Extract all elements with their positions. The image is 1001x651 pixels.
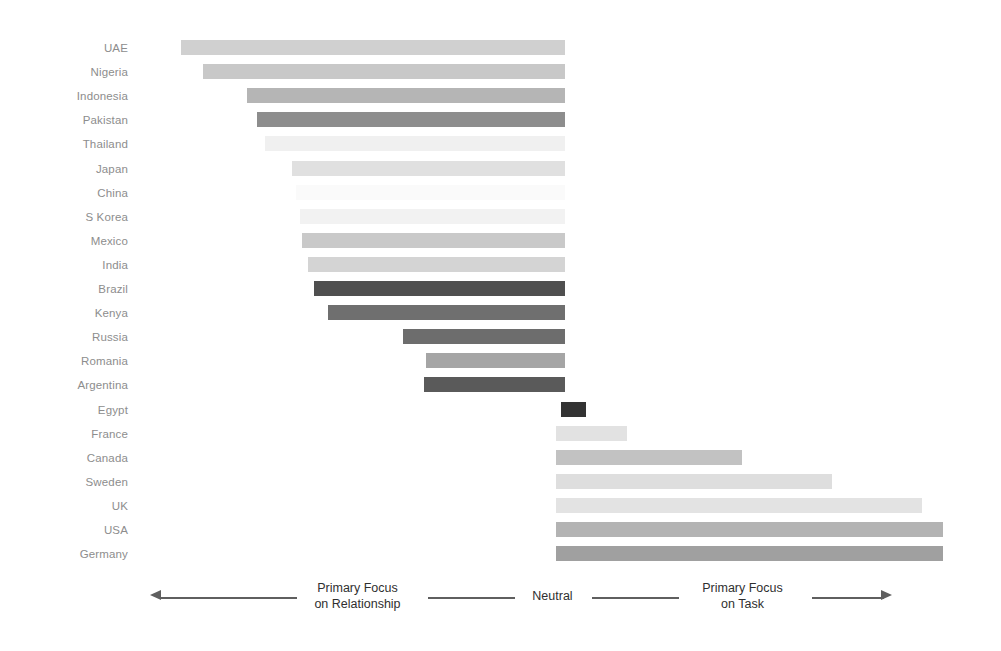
category-label-indonesia: Indonesia — [0, 84, 128, 108]
axis-label-task-line2: on Task — [680, 596, 805, 612]
bar-japan — [292, 161, 565, 176]
bar-uae — [181, 40, 565, 55]
bar-china — [296, 185, 565, 200]
chart-row: Germany — [0, 542, 1001, 566]
chart-row: Romania — [0, 349, 1001, 373]
chart-row: Argentina — [0, 373, 1001, 397]
axis-label-relationship-line2: on Relationship — [295, 596, 420, 612]
chart-row: Egypt — [0, 398, 1001, 422]
category-label-romania: Romania — [0, 349, 128, 373]
chart-row: India — [0, 253, 1001, 277]
axis-label-neutral: Neutral — [515, 588, 590, 604]
category-label-canada: Canada — [0, 446, 128, 470]
category-label-india: India — [0, 253, 128, 277]
axis-line-center-left-segment — [428, 597, 515, 599]
bar-thailand — [265, 136, 565, 151]
bar-uk — [556, 498, 922, 513]
chart-row: UAE — [0, 36, 1001, 60]
bar-mexico — [302, 233, 565, 248]
bar-egypt — [561, 402, 586, 417]
chart-row: Nigeria — [0, 60, 1001, 84]
axis-line-right-segment — [812, 597, 884, 599]
axis-label-task: Primary Focus on Task — [680, 580, 805, 612]
axis-line-center-right-segment — [592, 597, 679, 599]
bar-russia — [403, 329, 565, 344]
bar-usa — [556, 522, 943, 537]
chart-row: Japan — [0, 157, 1001, 181]
chart-row: Indonesia — [0, 84, 1001, 108]
axis-label-task-line1: Primary Focus — [702, 581, 783, 595]
chart-row: Mexico — [0, 229, 1001, 253]
bar-germany — [556, 546, 943, 561]
category-label-egypt: Egypt — [0, 398, 128, 422]
relationship-task-focus-chart: UAENigeriaIndonesiaPakistanThailandJapan… — [0, 0, 1001, 651]
bar-argentina — [424, 377, 565, 392]
category-label-sweden: Sweden — [0, 470, 128, 494]
chart-row: USA — [0, 518, 1001, 542]
category-label-germany: Germany — [0, 542, 128, 566]
chart-row: France — [0, 422, 1001, 446]
bar-s-korea — [300, 209, 565, 224]
category-label-thailand: Thailand — [0, 132, 128, 156]
category-label-mexico: Mexico — [0, 229, 128, 253]
axis-right-arrow-icon — [881, 590, 892, 600]
chart-row: Brazil — [0, 277, 1001, 301]
axis-label-neutral-text: Neutral — [532, 589, 572, 603]
category-label-kenya: Kenya — [0, 301, 128, 325]
category-label-uae: UAE — [0, 36, 128, 60]
chart-row: Thailand — [0, 132, 1001, 156]
chart-row: Kenya — [0, 301, 1001, 325]
chart-row: UK — [0, 494, 1001, 518]
category-label-russia: Russia — [0, 325, 128, 349]
bar-india — [308, 257, 565, 272]
chart-row: Canada — [0, 446, 1001, 470]
chart-row: China — [0, 181, 1001, 205]
chart-row: Pakistan — [0, 108, 1001, 132]
bar-pakistan — [257, 112, 565, 127]
category-label-france: France — [0, 422, 128, 446]
axis-line-left-segment — [160, 597, 297, 599]
bar-nigeria — [203, 64, 565, 79]
category-label-brazil: Brazil — [0, 277, 128, 301]
category-label-argentina: Argentina — [0, 373, 128, 397]
category-label-usa: USA — [0, 518, 128, 542]
bar-france — [556, 426, 627, 441]
chart-row: Russia — [0, 325, 1001, 349]
chart-row: S Korea — [0, 205, 1001, 229]
chart-axis: Primary Focus on Relationship Neutral Pr… — [0, 576, 1001, 636]
category-label-pakistan: Pakistan — [0, 108, 128, 132]
category-label-uk: UK — [0, 494, 128, 518]
category-label-china: China — [0, 181, 128, 205]
bar-indonesia — [247, 88, 565, 103]
bar-romania — [426, 353, 565, 368]
bar-brazil — [314, 281, 565, 296]
bar-sweden — [556, 474, 832, 489]
axis-left-arrow-icon — [150, 590, 161, 600]
category-label-nigeria: Nigeria — [0, 60, 128, 84]
category-label-japan: Japan — [0, 157, 128, 181]
category-label-s-korea: S Korea — [0, 205, 128, 229]
axis-label-relationship: Primary Focus on Relationship — [295, 580, 420, 612]
axis-label-relationship-line1: Primary Focus — [317, 581, 398, 595]
bar-kenya — [328, 305, 565, 320]
chart-row: Sweden — [0, 470, 1001, 494]
bar-canada — [556, 450, 742, 465]
